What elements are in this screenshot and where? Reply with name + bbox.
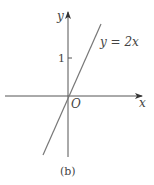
line-y-equals-2x bbox=[43, 24, 101, 155]
figure-caption: (b) bbox=[60, 165, 76, 178]
y-axis-label: y bbox=[56, 9, 64, 23]
y-tick-label-1: 1 bbox=[58, 52, 65, 65]
coordinate-plot: y x 1 O y = 2x (b) bbox=[0, 0, 154, 185]
x-axis-label: x bbox=[139, 96, 146, 110]
line-label: y = 2x bbox=[99, 35, 139, 49]
origin-label: O bbox=[71, 97, 81, 111]
